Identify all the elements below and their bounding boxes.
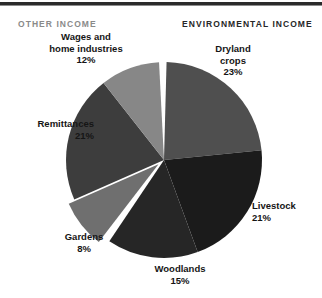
source-footnote bbox=[6, 290, 156, 297]
slice-label-livestock-line1: Livestock bbox=[252, 200, 296, 211]
slice-label-livestock-pct: 21% bbox=[252, 212, 318, 224]
slice-label-dryland-pct: 23% bbox=[196, 66, 270, 78]
slice-label-gardens: Gardens 8% bbox=[50, 231, 118, 254]
slice-label-gardens-line1: Gardens bbox=[65, 231, 104, 242]
slice-label-gardens-pct: 8% bbox=[50, 243, 118, 255]
slice-label-woodlands: Woodlands 15% bbox=[140, 263, 220, 286]
slice-label-woodlands-line1: Woodlands bbox=[154, 263, 205, 274]
slice-label-wages-line2: home industries bbox=[49, 43, 122, 54]
pie-chart-figure: OTHER INCOME ENVIRONMENTAL INCOME Drylan… bbox=[0, 0, 322, 298]
slice-label-wages-line1: Wages and bbox=[61, 31, 111, 42]
slice-label-woodlands-pct: 15% bbox=[140, 275, 220, 287]
slice-label-remittances: Remittances 21% bbox=[4, 118, 94, 141]
slice-label-livestock: Livestock 21% bbox=[252, 200, 318, 223]
slice-label-remittances-line1: Remittances bbox=[38, 118, 95, 129]
pie-slice-group: Dryland crops 23%Livestock 21%Woodlands … bbox=[66, 62, 262, 258]
slice-label-wages: Wages and home industries 12% bbox=[32, 31, 140, 66]
slice-label-wages-pct: 12% bbox=[32, 54, 140, 66]
slice-label-dryland-line1: Dryland bbox=[215, 43, 250, 54]
slice-label-dryland-line2: crops bbox=[220, 55, 246, 66]
slice-label-remittances-pct: 21% bbox=[4, 130, 94, 142]
slice-label-dryland-crops: Dryland crops 23% bbox=[196, 43, 270, 78]
